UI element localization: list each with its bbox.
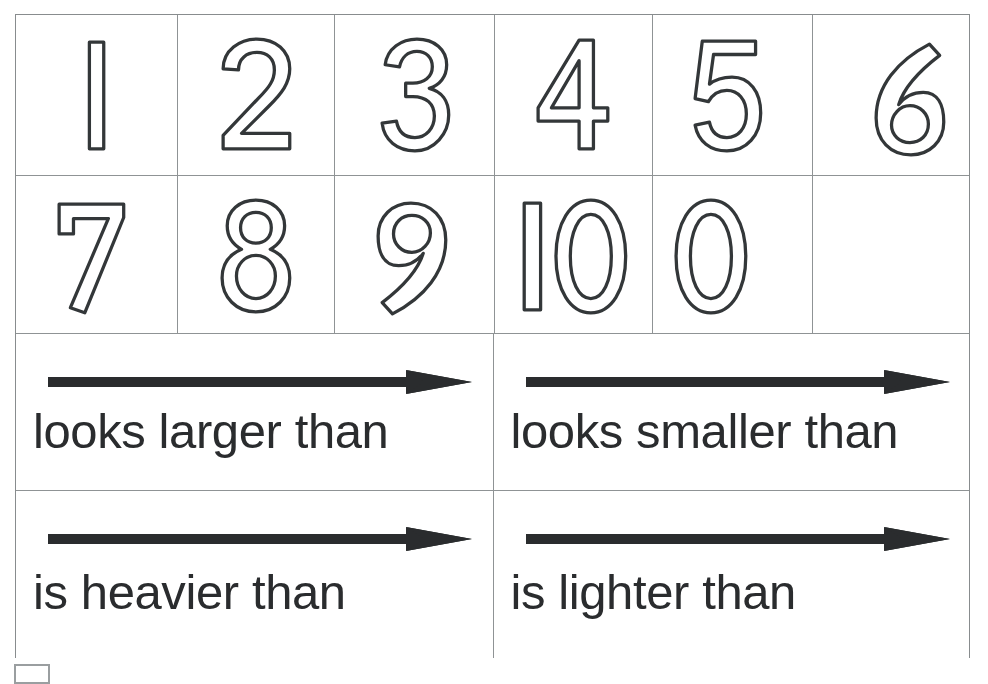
phrase-row-2: is heavier than is lighter than: [16, 490, 969, 658]
number-card-4[interactable]: 4: [494, 15, 652, 176]
digit-8-outline-icon: [218, 195, 294, 318]
digit-5-outline-icon: [691, 34, 763, 157]
digit-0-outline-icon: [673, 195, 749, 318]
number-card-6[interactable]: 6: [812, 15, 969, 176]
number-card-3[interactable]: 3: [334, 15, 494, 176]
number-card-9[interactable]: 9: [334, 176, 494, 336]
digit-7-outline-icon: [54, 197, 128, 320]
digit-6-outline-icon: [871, 38, 947, 161]
digit-3-outline-icon: [378, 34, 452, 157]
number-card-0[interactable]: 0: [652, 176, 812, 336]
number-card-10[interactable]: 10: [494, 176, 652, 336]
right-arrow-icon: [512, 362, 952, 402]
digit-9-outline-icon: [373, 197, 449, 320]
card-table: 1 2 3 4: [15, 14, 970, 658]
right-arrow-icon: [34, 519, 474, 559]
digit-4-outline-icon: [534, 34, 614, 157]
phrase-label: is lighter than: [511, 567, 796, 618]
number-card-2[interactable]: 2: [177, 15, 334, 176]
phrase-card-is-heavier-than[interactable]: is heavier than: [16, 491, 493, 658]
phrase-label: is heavier than: [33, 567, 346, 618]
phrase-row-1: looks larger than looks smaller than: [16, 333, 969, 490]
number-card-5[interactable]: 5: [652, 15, 812, 176]
digit-10-outline-icon: [516, 195, 631, 318]
phrase-label: looks smaller than: [511, 406, 899, 457]
number-card-1[interactable]: 1: [16, 15, 177, 176]
phrase-label: looks larger than: [33, 406, 388, 457]
right-arrow-icon: [512, 519, 952, 559]
crop-marker: [14, 664, 50, 684]
number-card-7[interactable]: 7: [16, 176, 177, 336]
digit-2-outline-icon: [218, 34, 294, 157]
number-row-1: 1 2 3 4: [16, 15, 969, 176]
number-card-8[interactable]: 8: [177, 176, 334, 336]
digit-1-outline-icon: [73, 34, 120, 157]
phrase-card-looks-larger-than[interactable]: looks larger than: [16, 334, 493, 490]
right-arrow-icon: [34, 362, 474, 402]
phrase-card-looks-smaller-than[interactable]: looks smaller than: [493, 334, 970, 490]
number-card-blank[interactable]: [812, 176, 969, 336]
phrase-card-is-lighter-than[interactable]: is lighter than: [493, 491, 970, 658]
number-row-2: 7 8 9 10: [16, 175, 969, 336]
